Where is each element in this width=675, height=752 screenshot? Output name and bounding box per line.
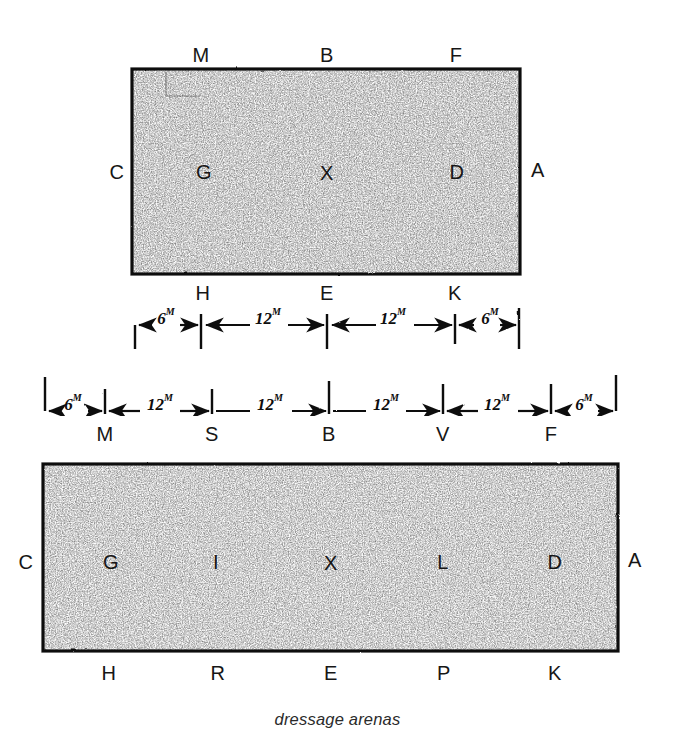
marker-x-small: X	[320, 163, 334, 183]
dimension-row-short-graphics	[135, 308, 519, 349]
dim-6m-long-right: 6M	[575, 395, 592, 413]
marker-d-large: D	[548, 552, 563, 572]
marker-m-dimrow: M	[96, 424, 113, 444]
marker-e-bottom-small: E	[320, 283, 334, 303]
marker-c-large: C	[19, 552, 34, 572]
marker-h-bottom-large: H	[102, 663, 117, 683]
marker-g-small: G	[196, 162, 212, 182]
marker-f-dimrow: F	[545, 424, 558, 444]
marker-h-bottom-small: H	[196, 283, 211, 303]
dim-6m-long-left: 6M	[64, 395, 81, 413]
figure-caption: dressage arenas	[0, 710, 675, 729]
dim-12m-long-3: 12M	[373, 395, 399, 413]
marker-a-small: A	[531, 160, 545, 180]
marker-k-bottom-small: K	[448, 283, 462, 303]
marker-b-top-small: B	[320, 45, 334, 65]
dressage-arena-diagram	[0, 0, 675, 752]
marker-l-large: L	[437, 552, 449, 572]
marker-x-large: X	[324, 553, 338, 573]
marker-m-top-small: M	[192, 45, 209, 65]
marker-c-small: C	[110, 162, 125, 182]
figure-page: M B F C G X D A H E K 6M 12M 12M 6M 6M 1…	[0, 0, 675, 752]
marker-s-dimrow: S	[205, 424, 219, 444]
marker-v-dimrow: V	[436, 424, 450, 444]
marker-d-small: D	[450, 162, 465, 182]
dim-6m-short-left: 6M	[157, 309, 174, 327]
marker-g-large: G	[103, 552, 119, 572]
dim-12m-short-mid2: 12M	[380, 309, 406, 327]
dimension-row-long-graphics	[45, 375, 616, 414]
marker-a-large: A	[628, 550, 642, 570]
marker-i-large: I	[213, 552, 219, 572]
dim-12m-short-mid1: 12M	[255, 309, 281, 327]
marker-e-bottom-large: E	[324, 663, 338, 683]
dim-6m-short-right: 6M	[481, 309, 498, 327]
marker-f-top-small: F	[450, 45, 463, 65]
marker-r-bottom-large: R	[211, 663, 226, 683]
dim-12m-long-4: 12M	[484, 395, 510, 413]
dim-12m-long-1: 12M	[147, 395, 173, 413]
dim-12m-long-2: 12M	[257, 395, 283, 413]
marker-p-bottom-large: P	[437, 663, 451, 683]
marker-b-dimrow: B	[322, 424, 336, 444]
marker-k-bottom-large: K	[548, 663, 562, 683]
